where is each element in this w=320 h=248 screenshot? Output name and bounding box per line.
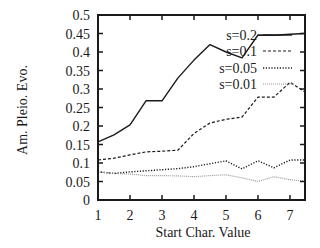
series-line-2 [98,160,305,173]
series-line-3 [98,172,305,182]
y-tick-label: 0.05 [66,175,91,190]
y-tick-label: 0.3 [73,82,91,97]
x-tick-label: 7 [286,208,293,223]
legend-label-2: s=0.05 [219,61,257,76]
x-tick-label: 5 [222,208,229,223]
series-line-0 [98,34,305,142]
x-tick-label: 1 [95,208,102,223]
legend: s=0.2s=0.1s=0.05s=0.01 [219,28,292,92]
y-tick-label: 0.25 [66,101,91,116]
x-tick-label: 4 [190,208,197,223]
y-tick-labels: 00.050.10.150.20.250.30.350.40.450.5 [66,8,91,208]
legend-label-3: s=0.01 [219,77,257,92]
x-tick-label: 6 [254,208,261,223]
x-tick-label: 2 [126,208,133,223]
x-tick-labels: 1234567 [95,208,294,223]
y-tick-label: 0.2 [73,119,91,134]
y-tick-label: 0.1 [73,156,91,171]
y-axis-label: Am. Pleio. Evo. [15,65,30,155]
legend-label-0: s=0.2 [226,28,257,43]
y-tick-label: 0.45 [66,27,91,42]
series-line-1 [98,82,305,160]
x-axis-label: Start Char. Value [155,225,250,240]
legend-label-1: s=0.1 [226,44,257,59]
y-tick-label: 0.35 [66,64,91,79]
x-tick-label: 3 [158,208,165,223]
y-tick-label: 0.5 [73,8,91,23]
y-tick-label: 0 [83,193,90,208]
line-chart: 00.050.10.150.20.250.30.350.40.450.5 123… [0,0,320,248]
y-tick-label: 0.15 [66,138,91,153]
series-lines [98,34,305,182]
y-tick-label: 0.4 [73,45,91,60]
